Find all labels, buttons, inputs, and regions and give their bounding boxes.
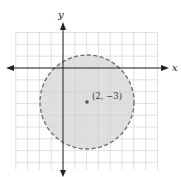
x-axis-label: x [172, 62, 178, 73]
coordinate-plane: x y (2, −3) [0, 0, 181, 177]
y-axis-up-arrow-icon [60, 22, 66, 30]
center-point [85, 100, 89, 104]
x-axis-left-arrow-icon [6, 65, 14, 71]
x-axis-right-arrow-icon [161, 65, 169, 71]
center-label: (2, −3) [92, 91, 122, 101]
y-axis-down-arrow-icon [60, 170, 66, 177]
y-axis-label: y [57, 9, 64, 20]
